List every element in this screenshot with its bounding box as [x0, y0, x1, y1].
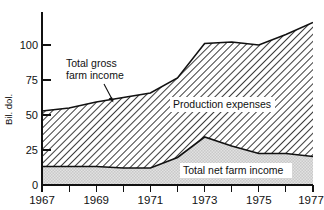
- y-tick-label-50: 50: [26, 109, 38, 121]
- x-tick-label-1977: 1977: [298, 194, 324, 206]
- annotation-total-gross-farm-income: Total gross farm income: [63, 57, 139, 103]
- annotation-total-net-farm-income: Total net farm income: [180, 163, 292, 178]
- y-axis-title: Bil. dol.: [3, 94, 14, 125]
- x-axis-ticks: [42, 185, 313, 192]
- chart-canvas: 100 75 50 25 0 Bil. dol. 1967 1969 1971 …: [0, 0, 324, 210]
- y-tick-label-100: 100: [20, 39, 38, 51]
- annotation-production-expenses: Production expenses: [170, 97, 275, 112]
- gross-label-line-2: farm income: [66, 69, 124, 81]
- y-tick-label-0: 0: [32, 179, 38, 191]
- y-tick-label-75: 75: [26, 74, 38, 86]
- gross-label-line-1: Total gross: [66, 57, 117, 69]
- production-label-text: Production expenses: [173, 98, 271, 110]
- net-label-text: Total net farm income: [183, 164, 284, 176]
- x-tick-label-1975: 1975: [246, 194, 272, 206]
- farm-income-area-chart: 100 75 50 25 0 Bil. dol. 1967 1969 1971 …: [0, 0, 324, 210]
- x-tick-label-1967: 1967: [29, 194, 55, 206]
- x-tick-label-1969: 1969: [83, 194, 109, 206]
- x-tick-label-1973: 1973: [192, 194, 218, 206]
- x-tick-label-1971: 1971: [138, 194, 164, 206]
- y-tick-label-25: 25: [26, 144, 38, 156]
